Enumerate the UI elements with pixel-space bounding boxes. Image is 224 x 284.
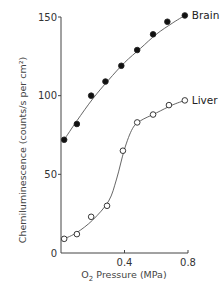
brain-curve bbox=[64, 15, 185, 139]
liver-data-point bbox=[182, 98, 188, 104]
brain-data-point bbox=[88, 93, 94, 99]
fitted-curves bbox=[64, 15, 185, 238]
brain-data-point bbox=[134, 47, 140, 53]
liver-data-point bbox=[61, 236, 67, 242]
brain-data-point bbox=[103, 79, 109, 85]
y-tick-label: 150 bbox=[38, 12, 57, 23]
liver-data-point bbox=[134, 120, 140, 126]
y-tick-label: 100 bbox=[38, 90, 57, 101]
brain-data-point bbox=[165, 19, 171, 25]
liver-data-point bbox=[88, 214, 94, 220]
brain-data-point bbox=[150, 32, 156, 38]
y-tick-label: 0 bbox=[51, 248, 57, 259]
liver-data-point bbox=[120, 148, 126, 154]
liver-curve bbox=[64, 100, 185, 238]
brain-data-point bbox=[182, 13, 188, 19]
brain-data-point bbox=[74, 121, 80, 127]
y-axis-title: Chemiluminescence (counts/s per cm²) bbox=[17, 57, 28, 243]
liver-data-point bbox=[104, 203, 110, 209]
liver-series-label: Liver bbox=[192, 94, 218, 106]
liver-data-point bbox=[166, 102, 172, 108]
labels: O2 Pressure (MPa)Chemiluminescence (coun… bbox=[17, 9, 219, 283]
brain-series-label: Brain bbox=[192, 9, 220, 21]
brain-data-point bbox=[61, 137, 67, 143]
x-axis-title: O2 Pressure (MPa) bbox=[81, 269, 166, 283]
x-tick-label: 0.8 bbox=[180, 257, 196, 268]
brain-data-point bbox=[119, 63, 125, 69]
liver-data-point bbox=[150, 112, 156, 118]
data-points bbox=[61, 13, 187, 242]
liver-data-point bbox=[74, 231, 80, 237]
y-tick-label: 50 bbox=[44, 169, 57, 180]
chart: 0501001500.40.8 O2 Pressure (MPa)Chemilu… bbox=[0, 0, 224, 284]
x-tick-label: 0.4 bbox=[117, 257, 133, 268]
